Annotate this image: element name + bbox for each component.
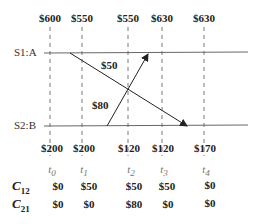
process-line-s1 — [44, 52, 248, 53]
c12-value-t3: $50 — [159, 180, 176, 192]
s2-value-t3: $120 — [152, 142, 174, 154]
process-line-s2 — [44, 125, 248, 126]
s1-value-t4: $630 — [193, 12, 215, 24]
message-arrow-s1-to-s2 — [70, 53, 187, 126]
time-label-t1: t1 — [80, 163, 88, 178]
c12-value-t2: $50 — [126, 180, 143, 192]
s2-value-t4: $170 — [194, 142, 216, 154]
channel-label-c21: C21 — [12, 196, 30, 214]
message-label-50: $50 — [101, 59, 118, 71]
process-label-s2: S2:B — [14, 119, 36, 131]
s1-value-t0: $600 — [39, 12, 61, 24]
s2-value-t0: $200 — [41, 142, 63, 154]
c21-value-t0: $0 — [53, 198, 64, 210]
c12-value-t4: $0 — [205, 179, 216, 191]
s1-value-t1: $550 — [71, 12, 93, 24]
time-label-t4: t4 — [202, 163, 210, 178]
c12-value-t1: $50 — [81, 180, 98, 192]
c12-value-t0: $0 — [53, 180, 64, 192]
c21-value-t4: $0 — [205, 197, 216, 209]
time-label-t2: t2 — [127, 163, 135, 178]
message-label-80: $80 — [92, 99, 109, 111]
time-label-t0: t0 — [48, 163, 56, 178]
process-label-s1: S1:A — [14, 46, 37, 58]
c21-value-t3: $0 — [163, 198, 174, 210]
s2-value-t1: $200 — [73, 142, 95, 154]
time-label-t3: t3 — [160, 163, 168, 178]
s1-value-t2: $550 — [117, 12, 139, 24]
s1-value-t3: $630 — [151, 12, 173, 24]
s2-value-t2: $120 — [118, 142, 140, 154]
channel-label-c12: C12 — [12, 178, 30, 196]
c21-value-t1: $0 — [84, 198, 95, 210]
c21-value-t2: $80 — [126, 198, 143, 210]
